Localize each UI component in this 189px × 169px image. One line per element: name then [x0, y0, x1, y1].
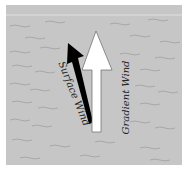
- diagram-canvas: [0, 0, 189, 169]
- gradient-wind-label: Gradient Wind: [120, 60, 131, 134]
